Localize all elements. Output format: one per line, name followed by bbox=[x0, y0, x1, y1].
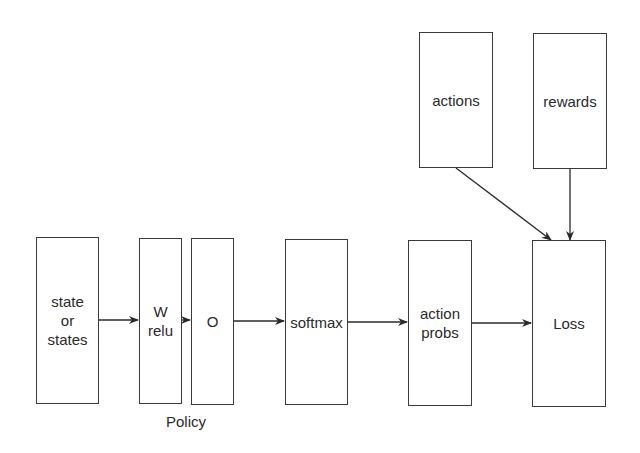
node-actions: actions bbox=[419, 32, 493, 168]
policy-group-label: Policy bbox=[166, 413, 206, 430]
node-action-probs: action probs bbox=[408, 240, 472, 406]
node-softmax: softmax bbox=[285, 239, 348, 405]
diagram-canvas: state or states W relu O softmax action … bbox=[0, 0, 640, 453]
node-state-label: state or states bbox=[47, 292, 87, 349]
node-state: state or states bbox=[36, 237, 99, 404]
edge-actions-to-loss bbox=[456, 168, 551, 240]
node-o-label: O bbox=[207, 312, 219, 331]
node-rewards-label: rewards bbox=[543, 92, 596, 111]
node-loss-label: Loss bbox=[553, 314, 585, 333]
node-softmax-label: softmax bbox=[290, 313, 343, 332]
node-w-relu-label: W relu bbox=[148, 302, 173, 340]
node-o: O bbox=[191, 238, 234, 405]
node-rewards: rewards bbox=[533, 33, 607, 169]
node-actions-label: actions bbox=[432, 91, 480, 110]
node-w-relu: W relu bbox=[139, 238, 182, 404]
node-action-probs-label: action probs bbox=[420, 304, 460, 342]
node-loss: Loss bbox=[532, 240, 606, 407]
